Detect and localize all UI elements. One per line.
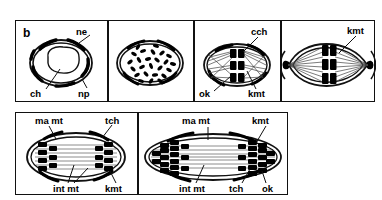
panel-metaphase-bipolar-spindle: kmt	[281, 21, 376, 101]
label-kmt: kmt	[347, 26, 364, 36]
label-int-mt: int mt	[53, 184, 79, 194]
label-ne: ne	[76, 27, 87, 37]
label-tch: tch	[229, 184, 243, 194]
mitosis-figure: b ne ch np	[0, 0, 382, 200]
top-row-panel-group: b ne ch np	[15, 20, 375, 102]
label-kmt: kmt	[105, 184, 122, 194]
bottom-row-panel-group: ma mt tch int mt kmt	[15, 112, 288, 195]
label-ch: ch	[30, 89, 41, 99]
panel-late-anaphase: ma mt kmt int mt tch ok	[138, 113, 289, 194]
label-ma-mt: ma mt	[182, 116, 210, 126]
label-np: np	[78, 89, 90, 99]
label-cch: cch	[251, 27, 267, 37]
label-ma-mt: ma mt	[35, 116, 63, 126]
panel-interphase-nucleus: b ne ch np	[16, 21, 107, 101]
panel-anaphase: ma mt tch int mt kmt	[16, 113, 137, 194]
label-ok: ok	[262, 184, 273, 194]
label-ok: ok	[199, 89, 210, 99]
panel-chromosome-condensation	[108, 21, 193, 101]
label-kmt: kmt	[252, 116, 269, 126]
label-tch: tch	[105, 116, 119, 126]
panel-letter-b: b	[23, 26, 30, 40]
label-kmt: kmt	[248, 89, 265, 99]
panel-prometaphase-spindle: cch ok kmt	[194, 21, 280, 101]
label-int-mt: int mt	[179, 184, 205, 194]
